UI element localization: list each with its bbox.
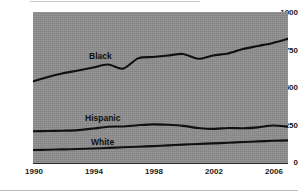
series-label-hispanic: Hispanic xyxy=(85,114,120,123)
bottom-divider-rule xyxy=(0,190,298,191)
series-label-white: White xyxy=(91,138,114,147)
x-tick-1990: 1990 xyxy=(19,168,49,176)
series-line-black xyxy=(33,39,288,82)
x-tick-1998: 1998 xyxy=(139,168,169,176)
x-tick-2006: 2006 xyxy=(259,168,289,176)
series-line-white xyxy=(33,140,288,150)
series-label-black: Black xyxy=(89,52,112,61)
x-tick-1994: 1994 xyxy=(79,168,109,176)
top-divider-rule xyxy=(30,1,200,2)
x-tick-2002: 2002 xyxy=(199,168,229,176)
series-lines xyxy=(33,12,288,163)
x-axis-line xyxy=(33,163,288,164)
series-line-hispanic xyxy=(33,124,288,131)
line-chart-figure: 1000 750 500 250 0 Black Hispanic White … xyxy=(0,0,298,195)
plot-area: Black Hispanic White xyxy=(33,12,288,163)
